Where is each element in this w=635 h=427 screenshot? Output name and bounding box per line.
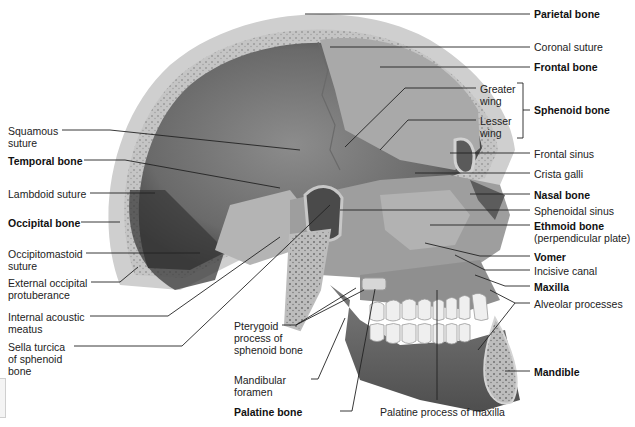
label-sphenoidal-sinus: Sphenoidal sinus	[534, 205, 614, 217]
label-frontal-bone: Frontal bone	[534, 61, 598, 73]
label-text: Mandibular	[234, 374, 286, 386]
label-nasal-bone: Nasal bone	[534, 189, 590, 201]
label-text: wing	[480, 95, 502, 107]
label-crista-galli: Crista galli	[534, 168, 583, 180]
label-text: Sella turcica	[8, 341, 65, 353]
label-text: process of	[234, 332, 282, 344]
page-edge-fragment	[0, 378, 6, 418]
label-text: foramen	[234, 386, 273, 398]
label-text: Occipitomastoid	[8, 248, 83, 260]
label-maxilla: Maxilla	[534, 281, 569, 293]
label-ethmoid-perpendicular-plate: (perpendicular plate)	[534, 232, 630, 244]
label-mandibular-foramen: Mandibularforamen	[234, 374, 286, 398]
label-alveolar-processes: Alveolar processes	[534, 298, 623, 310]
label-pterygoid-process: Pterygoidprocess ofsphenoid bone	[234, 320, 303, 356]
label-palatine-process-of-maxilla: Palatine process of maxilla	[380, 406, 505, 418]
label-text: External occipital	[8, 277, 87, 289]
label-frontal-sinus: Frontal sinus	[534, 148, 594, 160]
label-temporal-bone: Temporal bone	[8, 155, 82, 167]
label-text: Pterygoid	[234, 320, 278, 332]
label-lambdoid-suture: Lambdoid suture	[8, 188, 86, 200]
label-text: suture	[8, 260, 37, 272]
label-internal-acoustic-meatus: Internal acousticmeatus	[8, 311, 84, 335]
mandible-and-teeth	[330, 285, 520, 412]
label-text: protuberance	[8, 289, 70, 301]
label-mandible: Mandible	[534, 366, 580, 378]
label-parietal-bone: Parietal bone	[534, 8, 600, 20]
label-external-occipital-protuberance: External occipitalprotuberance	[8, 277, 87, 301]
label-incisive-canal: Incisive canal	[534, 265, 597, 277]
label-text: sphenoid bone	[234, 344, 303, 356]
label-sphenoid-bone: Sphenoid bone	[534, 104, 610, 116]
label-squamous-suture: Squamoussuture	[8, 125, 58, 149]
label-text: Lesser	[480, 115, 512, 127]
label-coronal-suture: Coronal suture	[534, 41, 603, 53]
label-greater-wing: Greaterwing	[480, 83, 516, 107]
label-text: meatus	[8, 323, 42, 335]
label-ethmoid-bone: Ethmoid bone	[534, 220, 604, 232]
label-lesser-wing: Lesserwing	[480, 115, 512, 139]
label-occipitomastoid-suture: Occipitomastoidsuture	[8, 248, 83, 272]
label-text: Squamous	[8, 125, 58, 137]
label-sella-turcica: Sella turcicaof sphenoidbone	[8, 341, 65, 377]
label-text: of sphenoid	[8, 353, 62, 365]
label-vomer: Vomer	[534, 251, 566, 263]
label-text: Greater	[480, 83, 516, 95]
label-text: bone	[8, 365, 31, 377]
label-palatine-bone: Palatine bone	[234, 406, 302, 418]
label-text: Internal acoustic	[8, 311, 84, 323]
label-occipital-bone: Occipital bone	[8, 217, 80, 229]
label-text: suture	[8, 137, 37, 149]
label-text: wing	[480, 127, 502, 139]
